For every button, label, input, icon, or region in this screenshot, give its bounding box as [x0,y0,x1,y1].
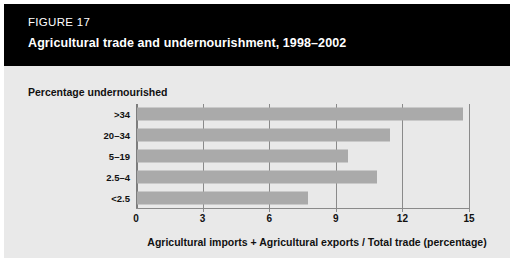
x-tick-mark [469,208,470,212]
y-axis-title: Percentage undernourished [28,86,167,98]
x-tick-label: 3 [200,213,206,224]
bar-row: 5–19 [4,146,510,167]
x-tick-label: 15 [463,213,474,224]
bar-row: 20–34 [4,125,510,146]
x-axis-baseline [136,208,470,209]
category-label: >34 [114,109,130,120]
figure-title: Agricultural trade and undernourishment,… [28,36,346,50]
figure-panel: FIGURE 17 Agricultural trade and underno… [4,4,510,258]
x-axis-title-wrap: Agricultural imports + Agricultural expo… [4,236,510,248]
x-tick-label: 9 [333,213,339,224]
chart-area: Percentage undernourished >3420–345–192.… [4,66,510,258]
bar [137,149,348,162]
figure-number-label: FIGURE 17 [28,16,90,28]
figure-header: FIGURE 17 Agricultural trade and underno… [4,4,510,66]
bar [137,170,377,183]
x-tick-label: 0 [133,213,139,224]
x-tick-mark [402,208,403,212]
x-tick-label: 6 [266,213,272,224]
bar-row: 2.5–4 [4,166,510,187]
x-tick-mark [203,208,204,212]
plot-region: >3420–345–192.5–4<2.5 [4,104,510,208]
x-tick-mark [269,208,270,212]
x-axis-title: Agricultural imports + Agricultural expo… [27,236,486,248]
x-tick-mark [336,208,337,212]
category-label: <2.5 [111,192,130,203]
category-label: 2.5–4 [106,171,130,182]
category-label: 5–19 [109,150,130,161]
bar-row: <2.5 [4,187,510,208]
x-axis: 03691215 [4,208,510,234]
x-tick-label: 12 [397,213,408,224]
bar [137,191,308,204]
category-label: 20–34 [104,130,130,141]
bar [137,129,390,142]
bar-row: >34 [4,104,510,125]
bar [137,108,463,121]
